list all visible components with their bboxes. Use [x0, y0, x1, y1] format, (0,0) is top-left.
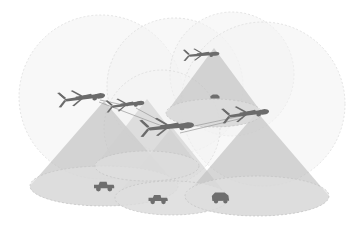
sensor-footprint-ellipse	[185, 176, 329, 216]
sensor-footprint-ellipse	[95, 151, 199, 181]
uav-coverage-svg	[0, 0, 364, 227]
diagram-canvas	[0, 0, 364, 227]
